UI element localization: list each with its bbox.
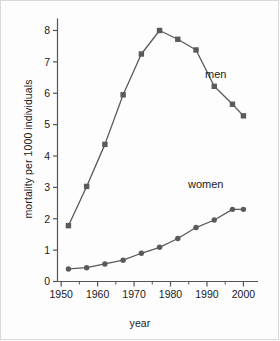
data-point-men xyxy=(193,47,198,52)
x-tick-label: 1990 xyxy=(195,288,219,300)
data-point-women xyxy=(193,225,198,230)
x-tick-label: 1980 xyxy=(159,288,183,300)
data-point-men xyxy=(212,84,217,89)
data-point-women xyxy=(102,261,107,266)
data-point-women xyxy=(212,217,217,222)
data-point-women xyxy=(175,236,180,241)
series-line-women xyxy=(68,209,243,269)
y-tick-label: 4 xyxy=(44,150,50,162)
y-tick-label: 3 xyxy=(44,181,50,193)
data-point-women xyxy=(230,207,235,212)
data-point-men xyxy=(66,223,71,228)
data-point-women xyxy=(139,251,144,256)
data-point-women xyxy=(157,245,162,250)
data-point-men xyxy=(157,28,162,33)
y-tick-label: 0 xyxy=(44,275,50,287)
data-point-women xyxy=(66,266,71,271)
x-axis-title: year xyxy=(0,317,280,329)
series-label-men: men xyxy=(205,68,226,80)
data-point-men xyxy=(120,92,125,97)
y-tick-label: 1 xyxy=(44,244,50,256)
y-tick-label: 7 xyxy=(44,56,50,68)
x-tick-label: 1950 xyxy=(49,288,73,300)
y-axis-title: mortality per 1000 individuals xyxy=(22,59,34,239)
data-point-women xyxy=(241,207,246,212)
data-point-men xyxy=(102,142,107,147)
y-tick-label: 2 xyxy=(44,213,50,225)
y-tick-label: 8 xyxy=(44,24,50,36)
x-tick-label: 1970 xyxy=(122,288,146,300)
data-point-men xyxy=(175,37,180,42)
x-tick-label: 1960 xyxy=(86,288,110,300)
data-point-men xyxy=(241,113,246,118)
series-label-women: women xyxy=(188,178,223,190)
data-point-men xyxy=(84,184,89,189)
x-tick-label: 2000 xyxy=(232,288,256,300)
chart-figure: 012345678195019601970198019902000 mortal… xyxy=(0,0,280,341)
y-tick-label: 6 xyxy=(44,87,50,99)
data-point-women xyxy=(120,257,125,262)
data-point-women xyxy=(84,265,89,270)
data-point-men xyxy=(139,51,144,56)
line-chart-plot: 012345678195019601970198019902000 xyxy=(0,0,280,341)
series-line-men xyxy=(68,30,243,225)
y-tick-label: 5 xyxy=(44,118,50,130)
data-point-men xyxy=(230,102,235,107)
